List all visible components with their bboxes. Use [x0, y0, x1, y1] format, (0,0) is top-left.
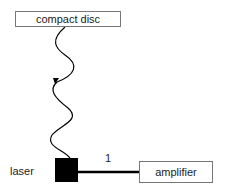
- laser-label: laser: [10, 165, 34, 177]
- wavy-signal-line: [51, 27, 74, 158]
- laser-block: [55, 158, 78, 182]
- amplifier-node: amplifier: [139, 161, 213, 183]
- connection-label: 1: [105, 152, 111, 164]
- compact-disc-node: compact disc: [15, 11, 121, 27]
